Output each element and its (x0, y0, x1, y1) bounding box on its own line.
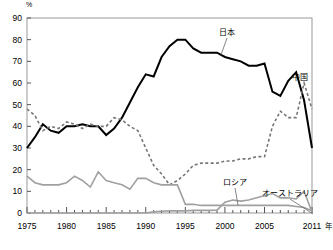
annotation-leader-line (235, 188, 238, 205)
series-label-4: オーストラリア (262, 189, 318, 198)
series-label-1: 日本 (219, 27, 235, 37)
series-label-3: ロシア (223, 178, 247, 187)
chart-annotations-layer: 日本中国ロシアオーストラリア (0, 0, 333, 250)
annotation-leader-line (221, 38, 227, 55)
annotation-leader-line (290, 199, 313, 214)
series-label-2: 中国 (292, 72, 308, 82)
chart-container: % 01020304050607080901975198019851990199… (0, 0, 333, 250)
